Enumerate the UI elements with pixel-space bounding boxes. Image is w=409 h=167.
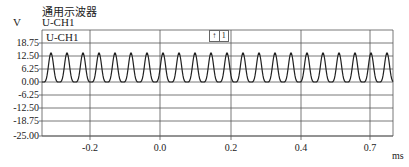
y-tick-label: 0.00	[22, 76, 40, 87]
oscilloscope-plot	[0, 0, 409, 167]
x-tick-label: 0.7	[364, 142, 377, 153]
y-tick-label: -12.50	[13, 102, 39, 113]
x-tick-label: -0.2	[82, 142, 98, 153]
trigger-indicator[interactable]: ↑ 1	[209, 30, 229, 42]
x-tick-label: 0.4	[295, 142, 308, 153]
y-tick-label: 6.25	[22, 63, 40, 74]
x-tick-label: 0.2	[225, 142, 238, 153]
waveform-trace	[42, 53, 393, 82]
y-tick-label: -6.25	[18, 89, 39, 100]
x-axis-unit: ms	[392, 150, 404, 161]
y-tick-label: -18.75	[13, 115, 39, 126]
plot-channel-label: U-CH1	[46, 31, 78, 43]
x-tick-label: 0.0	[154, 142, 167, 153]
y-tick-label: 12.50	[17, 50, 40, 61]
rising-edge-icon: ↑	[210, 31, 220, 41]
y-tick-label: -25.00	[13, 130, 39, 141]
trigger-channel-number: 1	[220, 31, 229, 41]
y-tick-label: 18.75	[17, 37, 40, 48]
